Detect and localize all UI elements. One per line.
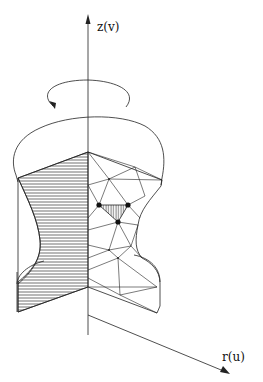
r-axis-label: r(u) xyxy=(222,350,245,364)
node-dot xyxy=(96,202,101,207)
top-ellipse xyxy=(13,117,163,178)
z-axis-arrowhead xyxy=(86,14,91,24)
highlighted-element xyxy=(99,205,128,222)
axisymmetric-mesh-diagram xyxy=(0,0,263,382)
left-section xyxy=(18,152,88,312)
rotation-arrow xyxy=(48,80,130,107)
node-dot xyxy=(125,202,130,207)
right-outline xyxy=(88,152,162,313)
rotation-arrowhead xyxy=(49,101,56,109)
r-axis xyxy=(88,315,226,372)
node-dot xyxy=(115,219,120,224)
z-axis-label: z(v) xyxy=(97,20,119,34)
r-axis-arrowhead xyxy=(220,366,230,374)
